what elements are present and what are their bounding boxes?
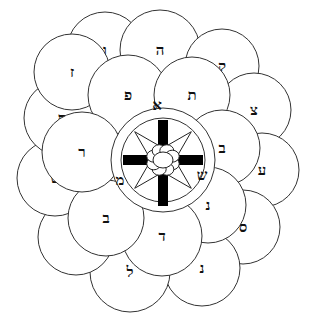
hebrew-letter: ב [102, 209, 109, 227]
center-hebrew-letter: א [152, 96, 162, 114]
hebrew-letter: ז [70, 63, 74, 81]
hebrew-letter: ד [158, 227, 165, 245]
hebrew-letter: ר [78, 143, 85, 161]
hebrew-letter: נ [206, 196, 211, 214]
letter-circle-diagram: והקצעסנליטחז פתבנדבר אשמ [0, 0, 313, 316]
hebrew-letter: ע [258, 161, 267, 179]
hebrew-letter: ב [218, 139, 225, 157]
hebrew-letter: צ [250, 101, 258, 119]
hebrew-letter: נ [200, 259, 205, 277]
hebrew-letter: ל [125, 263, 133, 281]
hebrew-letter: ה [156, 41, 165, 59]
inner-circle: ר [42, 112, 122, 192]
hebrew-letter: פ [124, 86, 132, 104]
hebrew-letter: ת [187, 86, 196, 104]
center-hebrew-letter: ש [197, 166, 208, 184]
center-hebrew-letter: מ [116, 171, 125, 189]
